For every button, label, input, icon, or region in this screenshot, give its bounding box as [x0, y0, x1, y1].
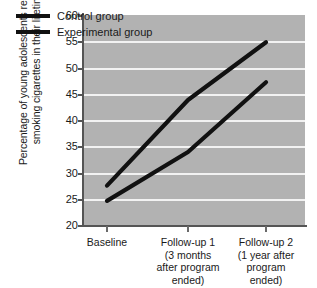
legend: Control group Experimental group — [16, 8, 206, 40]
y-tick-label-40: 40 — [56, 115, 78, 126]
y-tick-mark-55 — [78, 41, 83, 43]
y-tick-label-45: 45 — [56, 89, 78, 100]
legend-item-experimental-group: Experimental group — [16, 24, 206, 40]
x-tick-mark-followup-1 — [187, 226, 189, 232]
y-tick-mark-50 — [78, 68, 83, 70]
y-tick-mark-30 — [78, 173, 83, 175]
legend-label-experimental-group: Experimental group — [57, 27, 152, 38]
y-tick-mark-45 — [78, 94, 83, 96]
y-tick-label-30: 30 — [56, 168, 78, 179]
series-svg — [84, 15, 305, 225]
y-tick-mark-25 — [78, 199, 83, 201]
x-tick-label-followup-2: Follow-up 2 (1 year after program ended) — [211, 236, 317, 286]
legend-item-control-group: Control group — [16, 8, 206, 24]
y-tick-label-35: 35 — [56, 141, 78, 152]
legend-swatch-experimental-group — [16, 30, 50, 34]
x-axis-line — [82, 225, 307, 227]
y-tick-label-25: 25 — [56, 194, 78, 205]
x-tick-mark-followup-2 — [265, 226, 267, 232]
x-tick-label-followup-2-line-2: (1 year after — [211, 249, 317, 262]
legend-label-control-group: Control group — [57, 11, 124, 22]
x-tick-label-followup-2-line-4: ended) — [211, 274, 317, 287]
legend-swatch-control-group — [16, 14, 50, 18]
y-tick-mark-20 — [78, 225, 83, 227]
series-line-control-group — [107, 42, 266, 185]
y-tick-mark-40 — [78, 120, 83, 122]
x-tick-label-followup-2-line-3: program — [211, 261, 317, 274]
x-tick-label-followup-2-line-1: Follow-up 2 — [211, 236, 317, 249]
x-tick-mark-baseline — [106, 226, 108, 232]
y-tick-label-20: 20 — [56, 220, 78, 231]
y-tick-label-50: 50 — [56, 63, 78, 74]
plot-area — [84, 15, 305, 225]
y-tick-mark-35 — [78, 146, 83, 148]
